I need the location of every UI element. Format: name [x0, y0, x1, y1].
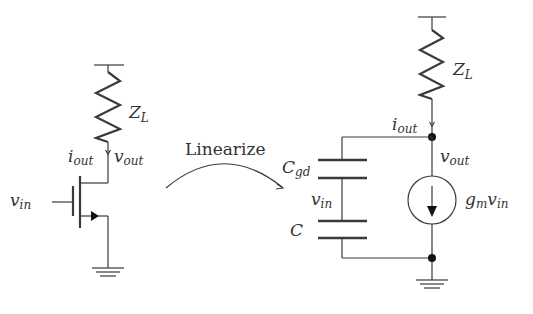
circuit-diagram: ZL iout vout vin Linearize [0, 0, 533, 314]
ground-icon-right [416, 280, 448, 288]
load-impedance-left [96, 72, 120, 142]
left-circuit: ZL iout vout vin [10, 65, 149, 276]
ground-node [428, 254, 436, 262]
load-impedance-right [420, 30, 443, 99]
linearize-transition: Linearize [166, 139, 283, 189]
transconductance-label: gmvin [465, 189, 508, 211]
load-label-right: ZL [452, 59, 473, 82]
output-voltage-label-left: vout [114, 146, 144, 168]
output-voltage-label-right: vout [440, 146, 470, 168]
ground-icon-left [92, 268, 124, 276]
current-label-right: iout [392, 114, 417, 136]
source-arrow-icon [91, 211, 99, 221]
linearize-label: Linearize [185, 139, 265, 159]
load-label-left: ZL [128, 102, 149, 125]
curved-arrow-icon [166, 164, 282, 188]
input-voltage-label-left: vin [10, 190, 31, 212]
current-label-left: iout [68, 146, 93, 168]
right-circuit: ZL iout vout Cgd vin C gmvin [282, 17, 508, 288]
cgd-label: Cgd [282, 157, 311, 179]
current-direction-arrow-icon [427, 206, 437, 217]
c-label: C [290, 220, 303, 240]
vin-label-right: vin [311, 189, 332, 211]
